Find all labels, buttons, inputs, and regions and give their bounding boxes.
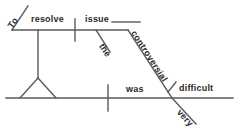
word-difficult: difficult	[179, 83, 213, 93]
tripod-right-leg	[38, 78, 56, 98]
word-resolve: resolve	[31, 14, 64, 24]
tripod-left-leg	[20, 78, 38, 98]
verb-complement-divider	[168, 82, 176, 92]
sentence-diagram: To resolve issue the controversial was d…	[0, 0, 239, 136]
word-issue: issue	[85, 14, 109, 24]
word-was: was	[126, 84, 144, 94]
